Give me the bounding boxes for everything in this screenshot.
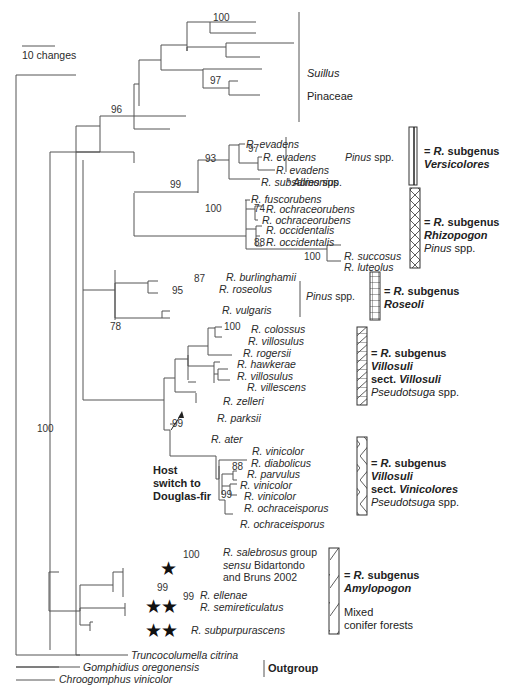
group-habitat: Mixed [344,606,373,619]
host-label: Pinus spp. [306,290,355,302]
taxon-label: and Bruns 2002 [223,571,297,583]
genus-abbrev: R. [393,285,404,297]
taxon-label: R. semireticulatus [200,601,283,613]
bar-roseoli [370,272,380,320]
host-genus: Pseudotsuga [371,386,435,398]
host-genus: Pseudotsuga [371,496,435,508]
host-label: Pinus spp. [345,151,394,163]
group-name: Versicolores [424,158,490,171]
bootstrap-value: 93 [205,153,216,164]
group-habitat: conifer forests [344,619,413,632]
taxon-label: R. ellenae [200,589,247,601]
taxon-label: R. ochraceisporus [240,518,325,530]
bootstrap-value: 96 [111,104,122,115]
host-genus: Pinus [424,242,452,254]
host-spp: spp. [435,496,459,508]
taxon-label: R. colossus [251,323,305,335]
bootstrap-value: 100 [304,251,321,262]
bar-amylopogon [329,548,339,634]
rank: subgenus [391,347,446,359]
host-spp: spp. [332,290,355,302]
taxon-label: R. villescens [247,381,306,393]
rank: subgenus [364,569,419,581]
genus-abbrev: R. [433,216,444,228]
taxon-label: R. evadens [246,138,299,150]
bar-rhizopogon [410,188,420,268]
taxon-label: R. luteolus [344,261,394,273]
taxon-label: R. evadens [276,164,329,176]
bootstrap-value: 99 [170,179,181,190]
bootstrap-value: 100 [213,12,230,23]
section-name: Vinicolores [399,483,458,495]
host-genus: Abies [293,176,319,188]
group-label-versicolores: = R. subgenus [424,145,500,158]
taxon-name: R. salebrosus [223,546,287,558]
annotation-line: Douglas-fir [153,490,211,503]
host-spp: spp. [371,151,394,163]
genus-abbrev: R. [380,457,391,469]
taxon-label: R. salebrosus group [223,546,317,558]
rank: subgenus [444,216,499,228]
group-label-villosuli: = R. subgenus [371,347,447,360]
bootstrap-value: 87 [194,273,205,284]
host-spp: spp. [435,386,459,398]
taxon-qualifier: group [287,546,317,558]
group-label-amylopogon: = R. subgenus [344,569,420,582]
taxon-qualifier: sensu [223,559,251,571]
genus-abbrev: R. [380,347,391,359]
host-spp: spp. [452,242,476,254]
taxon-label: R. hawkerae [237,358,296,370]
taxon-label: R. vinicolor [252,445,304,457]
bar-versicolores [409,127,417,185]
taxon-label: R. zelleri [223,395,264,407]
group-section: sect. Vinicolores [371,483,458,496]
taxon-label: R. parksii [217,412,261,424]
annotation-line: switch to [153,477,211,490]
bootstrap-value: 100 [37,423,54,434]
rank: subgenus [444,145,499,157]
star-icon: ★ [161,621,178,640]
group-name: Rhizopogon [424,229,488,242]
taxon-label: R. roseolus [219,283,272,295]
taxon-label: R. ochraceisporus [244,502,329,514]
star-icon: ★ [145,621,162,640]
taxon-qualifier: Bidartondo [251,559,305,571]
bootstrap-value: 100 [205,203,222,214]
star-icon: ★ [161,597,178,616]
rank: sect. [371,373,399,385]
bootstrap-value: 100 [183,549,200,560]
bootstrap-value: 88 [254,237,265,248]
bootstrap-value: 99 [183,591,194,602]
taxon-label: R. occidentalis [266,224,334,236]
host-switch-annotation: Host switch to Douglas-fir [153,464,211,503]
genus-abbrev: R. [353,569,364,581]
star-icon: ★ [160,559,177,578]
genus-abbrev: R. [433,145,444,157]
bootstrap-value: 100 [224,321,241,332]
group-host: Pseudotsuga spp. [371,386,459,399]
bootstrap-value: 99 [221,489,232,500]
bootstrap-value: 95 [172,285,183,296]
bootstrap-value: 97 [210,75,221,86]
host-genus: Pinus [306,290,332,302]
bar-villosuli [357,327,367,405]
taxon-label: R. burlinghamii [226,271,296,283]
host-genus: Pinus [345,151,371,163]
taxon-label: Truncocolumella citrina [131,649,238,661]
bootstrap-value: 78 [110,321,121,332]
group-label-vinicolores: = R. subgenus [371,457,447,470]
star-icon: ★ [145,597,162,616]
group-label-suillus: Suillus [307,67,339,80]
taxon-label: R. occidentalis [266,236,334,248]
annotation-line: Host [153,464,211,477]
group-label-roseoli: = R. subgenus [384,285,460,298]
group-host: Pseudotsuga spp. [371,496,459,509]
bootstrap-value: 99 [172,418,183,429]
group-name: Villosuli [371,470,413,483]
rank: subgenus [404,285,459,297]
taxon-label: R. vinicolor [244,490,296,502]
section-name: Villosuli [399,373,441,385]
bootstrap-value: 88 [232,461,243,472]
group-name: Amylopogon [344,582,411,595]
host-label: Abies spp. [293,176,342,188]
